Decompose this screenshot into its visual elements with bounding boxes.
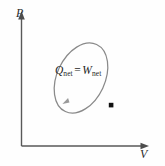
q-subscript: net — [63, 69, 72, 78]
w-subscript: net — [92, 69, 101, 78]
state-point-marker — [109, 103, 114, 108]
p-axis-label: P — [16, 7, 23, 19]
v-axis-label: V — [140, 148, 147, 160]
cycle-direction-arrow-icon — [62, 98, 70, 104]
pv-diagram-figure: P V Qnet=Wnet — [0, 0, 165, 166]
cycle-energy-annotation: Qnet=Wnet — [55, 65, 101, 77]
pv-diagram-canvas — [0, 0, 165, 166]
w-symbol: W — [82, 64, 92, 76]
equals-sign: = — [73, 64, 83, 76]
cycle-loop-path — [44, 34, 119, 121]
